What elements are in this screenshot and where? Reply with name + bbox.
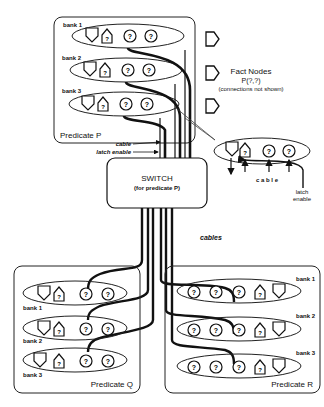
predicate-p-bank-3-label: bank 3 [62, 88, 82, 94]
predicate-p-label: Predicate P [60, 131, 101, 140]
fact-network-diagram: ? ? Predicate P bank 1 bank 2 bank 3 [0, 0, 324, 407]
predicate-r-bank-2-label: bank 2 [296, 313, 316, 319]
predicate-q-group: Predicate Q bank 1 bank 2 bank 3 [14, 266, 140, 393]
predicate-p-group: Predicate P bank 1 bank 2 bank 3 [54, 17, 195, 158]
cable-label: cable [116, 141, 132, 147]
predicate-p-bank-2-label: bank 2 [62, 55, 82, 61]
cables-label: cables [200, 234, 222, 241]
predicate-p-bank-1-label: bank 1 [63, 22, 83, 28]
detail-cable-label: c a b l e [256, 177, 279, 183]
detail-enable-label: enable [293, 196, 312, 202]
switch-subtitle: (for predicate P) [134, 185, 180, 191]
detail-latch-label: latch [296, 189, 309, 195]
fact-nodes-group: Fact Nodes P(?,?) (connections not shown… [206, 32, 284, 113]
latch-enable-label: latch enable [96, 149, 131, 155]
predicate-r-bank-3-label: bank 3 [296, 350, 316, 356]
fact-nodes-title: Fact Nodes [231, 67, 272, 76]
fact-nodes-note: (connections not shown) [218, 86, 283, 92]
predicate-q-bank-2-label: bank 2 [23, 338, 43, 344]
predicate-q-bank-1-label: bank 1 [23, 305, 43, 311]
switch-title: SWITCH [141, 174, 173, 183]
predicate-r-label: Predicate R [271, 380, 313, 389]
predicate-r-bank-1-label: bank 1 [296, 276, 316, 282]
bank-detail-group: c a b l e latch enable [214, 138, 312, 202]
switch-box: SWITCH (for predicate P) [107, 158, 207, 208]
predicate-q-bank-3-label: bank 3 [23, 372, 43, 378]
cables-group [88, 208, 234, 364]
predicate-q-label: Predicate Q [91, 380, 133, 389]
fact-nodes-pattern: P(?,?) [241, 77, 260, 85]
